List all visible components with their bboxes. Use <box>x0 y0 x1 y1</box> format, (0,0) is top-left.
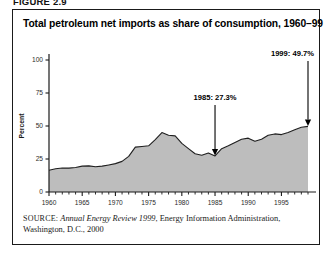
y-tick-label: 25 <box>36 155 44 162</box>
chart-plot-area: 0255075100Percent19601965197019751980198… <box>13 34 321 209</box>
y-axis-title: Percent <box>18 113 25 139</box>
area-fill <box>49 126 308 192</box>
x-tick-label: 1965 <box>75 199 90 206</box>
x-tick-label: 1970 <box>108 199 123 206</box>
x-tick-label: 1980 <box>174 199 189 206</box>
source-title: Annual Energy Review 1999 <box>60 214 155 223</box>
1999-annotation-arrow-head <box>305 119 311 126</box>
x-tick-label: 1995 <box>274 199 289 206</box>
petroleum-imports-area-chart: 0255075100Percent19601965197019751980198… <box>13 34 321 209</box>
figure-caption: FIGURE 2.9 <box>13 0 67 7</box>
chart-title: Total petroleum net imports as share of … <box>23 18 313 29</box>
x-tick-label: 1960 <box>42 199 57 206</box>
1999-annotation-label: 1999: 49.7% <box>271 49 314 58</box>
x-tick-label: 1975 <box>141 199 156 206</box>
x-tick-label: 1985 <box>208 199 223 206</box>
y-tick-label: 75 <box>36 89 44 96</box>
y-tick-label: 0 <box>39 188 43 195</box>
y-tick-label: 50 <box>36 122 44 129</box>
source-label: SOURCE: <box>23 214 58 223</box>
1985-annotation-label: 1985: 27.3% <box>193 93 236 102</box>
y-tick-label: 100 <box>32 56 43 63</box>
source-note: SOURCE: Annual Energy Review 1999, Energ… <box>23 213 311 236</box>
figure-box: Total petroleum net imports as share of … <box>12 9 320 245</box>
x-tick-label: 1990 <box>241 199 256 206</box>
